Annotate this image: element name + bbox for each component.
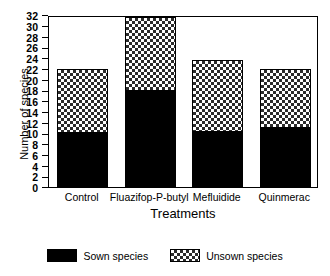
y-tick-label: 4 bbox=[0, 162, 38, 172]
x-tick-label: Quinmerac bbox=[224, 191, 330, 203]
y-tick-label: 20 bbox=[0, 76, 38, 86]
bar-group bbox=[125, 15, 176, 187]
y-tick-label: 24 bbox=[0, 54, 38, 64]
y-tick-label: 18 bbox=[0, 86, 38, 96]
bar-group bbox=[57, 15, 108, 187]
bar-segment-unsown bbox=[125, 17, 176, 91]
bar-segment-sown bbox=[125, 91, 176, 187]
y-tick-label: 16 bbox=[0, 97, 38, 107]
bar-group bbox=[192, 15, 243, 187]
x-axis-title: Treatments bbox=[48, 206, 318, 221]
bar-segment-unsown bbox=[192, 60, 243, 132]
legend-swatch-unsown bbox=[170, 249, 200, 262]
legend-swatch-sown bbox=[47, 249, 77, 262]
y-tick-label: 32 bbox=[0, 11, 38, 21]
bar-segment-sown bbox=[192, 132, 243, 187]
y-tick-label: 26 bbox=[0, 43, 38, 53]
y-tick-label: 30 bbox=[0, 22, 38, 32]
legend-entry-sown: Sown species bbox=[47, 249, 148, 262]
y-tick-label: 22 bbox=[0, 65, 38, 75]
chart-legend: Sown species Unsown species bbox=[0, 249, 330, 262]
y-tick-label: 10 bbox=[0, 129, 38, 139]
legend-entry-unsown: Unsown species bbox=[170, 249, 282, 262]
bar-segment-unsown bbox=[57, 69, 108, 134]
y-tick-label: 6 bbox=[0, 151, 38, 161]
bar-segment-sown bbox=[57, 133, 108, 187]
y-tick-label: 8 bbox=[0, 140, 38, 150]
y-tick-label: 28 bbox=[0, 33, 38, 43]
y-tick-label: 14 bbox=[0, 108, 38, 118]
plot-area bbox=[48, 16, 318, 188]
y-tick-label: 2 bbox=[0, 172, 38, 182]
legend-label-sown: Sown species bbox=[83, 250, 148, 262]
bar-segment-sown bbox=[260, 128, 311, 187]
y-tick-label: 12 bbox=[0, 119, 38, 129]
chart-figure: Number of species 3230282624222018161412… bbox=[0, 0, 330, 276]
bar-group bbox=[260, 15, 311, 187]
legend-label-unsown: Unsown species bbox=[206, 250, 282, 262]
bar-segment-unsown bbox=[260, 69, 311, 128]
